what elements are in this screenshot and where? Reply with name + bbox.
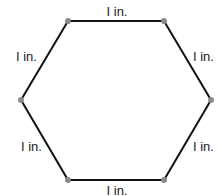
vertex-top-left	[65, 18, 71, 24]
edge-label-top: I in.	[107, 4, 128, 19]
edge-label-lower-left: I in.	[21, 139, 42, 154]
vertex-bottom-left	[65, 177, 71, 183]
edge-label-lower-right: I in.	[193, 139, 214, 154]
vertex-right	[208, 97, 214, 103]
vertex-left	[18, 97, 24, 103]
vertex-bottom-right	[161, 177, 167, 183]
edge-label-upper-right: I in.	[193, 49, 214, 64]
hexagon-outline	[21, 21, 211, 180]
hexagon-canvas: I in. I in. I in. I in. I in. I in.	[0, 0, 222, 196]
edge-label-bottom: I in.	[107, 183, 128, 196]
hexagon-diagram: I in. I in. I in. I in. I in. I in.	[0, 0, 222, 196]
vertex-top-right	[161, 18, 167, 24]
edge-label-upper-left: I in.	[16, 49, 37, 64]
